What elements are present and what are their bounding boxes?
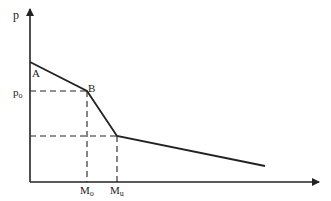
point-b-label: B (88, 82, 95, 94)
curve (30, 62, 265, 166)
y-axis-label: p (13, 8, 19, 22)
point-a-label: A (32, 67, 40, 79)
m0-label: Mo (80, 184, 94, 198)
p0-label: po (13, 86, 23, 100)
diagram: p A B po Mo Mu (0, 0, 331, 201)
mu-label: Mu (110, 184, 124, 198)
